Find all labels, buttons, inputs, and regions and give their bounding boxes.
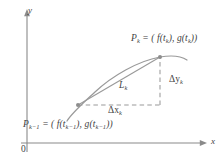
x-axis-label: x (211, 137, 215, 146)
pk1-sub-g: k−1 (95, 123, 106, 130)
point-marker-p-k-minus-1 (76, 103, 80, 107)
delta-y-label: Δyk (169, 75, 183, 85)
point-label-p-k-minus-1: Pk−1 = ( f(tk−1), g(tk−1)) (23, 120, 113, 130)
pk1-close: )) (106, 119, 113, 129)
delta-x-subscript: k (119, 109, 122, 116)
origin-label: 0 (21, 145, 26, 155)
y-axis (24, 9, 30, 152)
pk1-subscript: k−1 (29, 123, 40, 130)
pk1-sub-f: k−1 (66, 123, 77, 130)
delta-y-symbol: Δy (169, 74, 180, 84)
parametric-arc-length-figure: y x 0 Pk = ( f(tk), g(tk)) Pk−1 = ( f(tk… (0, 0, 224, 165)
pk-sub-g: k (188, 37, 191, 44)
chord-length-label: Lk (119, 81, 127, 91)
pk-equals-open: = ( f(t (140, 33, 166, 43)
pk1-equals-open: = ( f(t (40, 119, 66, 129)
pk-sub-f: k (166, 37, 169, 44)
pk-close: )) (191, 33, 198, 43)
x-axis-arrowhead-icon (200, 140, 207, 146)
x-axis (21, 140, 207, 146)
point-marker-p-k (158, 55, 162, 59)
pk1-middle: ), g(t (76, 119, 95, 129)
point-label-p-k: Pk = ( f(tk), g(tk)) (131, 34, 197, 44)
pk-middle: ), g(t (169, 33, 188, 43)
delta-x-symbol: Δx (108, 105, 119, 115)
pk-subscript: k (137, 37, 140, 44)
y-axis-label: y (28, 6, 32, 15)
delta-y-subscript: k (180, 78, 183, 85)
lk-subscript: k (124, 84, 127, 91)
figure-canvas (0, 0, 224, 165)
delta-x-label: Δxk (108, 106, 122, 116)
